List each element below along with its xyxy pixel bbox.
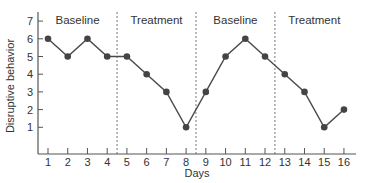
phase-label: Treatment bbox=[288, 14, 341, 26]
x-tick-label: 5 bbox=[124, 156, 130, 168]
y-tick-label: 1 bbox=[27, 121, 33, 133]
data-point-marker bbox=[321, 124, 328, 131]
data-point-marker bbox=[341, 106, 348, 113]
y-axis-label: Disruptive behavior bbox=[4, 39, 16, 133]
data-point-marker bbox=[301, 89, 308, 96]
data-point-marker bbox=[45, 36, 52, 43]
x-ticks: 12345678910111213141516 bbox=[45, 148, 350, 168]
x-tick-label: 14 bbox=[298, 156, 310, 168]
x-tick-label: 4 bbox=[104, 156, 110, 168]
y-tick-label: 2 bbox=[27, 104, 33, 116]
y-tick-label: 6 bbox=[27, 33, 33, 45]
x-tick-label: 16 bbox=[338, 156, 350, 168]
data-point-marker bbox=[104, 53, 111, 60]
y-tick-label: 5 bbox=[27, 51, 33, 63]
data-point-marker bbox=[84, 36, 91, 43]
data-point-marker bbox=[124, 53, 131, 60]
data-point-marker bbox=[203, 89, 210, 96]
data-point-marker bbox=[242, 36, 249, 43]
data-point-marker bbox=[163, 89, 170, 96]
x-tick-label: 7 bbox=[163, 156, 169, 168]
x-tick-label: 10 bbox=[219, 156, 231, 168]
axes bbox=[38, 12, 356, 154]
data-point-marker bbox=[281, 71, 288, 78]
x-tick-label: 1 bbox=[45, 156, 51, 168]
x-tick-label: 6 bbox=[144, 156, 150, 168]
data-point-marker bbox=[183, 124, 190, 131]
y-tick-label: 4 bbox=[27, 68, 33, 80]
data-point-marker bbox=[64, 53, 71, 60]
x-tick-label: 2 bbox=[65, 156, 71, 168]
data-point-marker bbox=[262, 53, 269, 60]
phase-label: Baseline bbox=[213, 14, 257, 26]
y-tick-label: 7 bbox=[27, 15, 33, 27]
x-tick-label: 13 bbox=[279, 156, 291, 168]
phase-labels: BaselineTreatmentBaselineTreatment bbox=[56, 14, 342, 26]
x-tick-label: 15 bbox=[318, 156, 330, 168]
y-ticks: 1234567 bbox=[27, 15, 43, 133]
phase-label: Treatment bbox=[131, 14, 184, 26]
data-point-marker bbox=[143, 71, 150, 78]
x-axis-label: Days bbox=[184, 167, 210, 179]
y-tick-label: 3 bbox=[27, 86, 33, 98]
phase-label: Baseline bbox=[56, 14, 100, 26]
x-tick-label: 3 bbox=[84, 156, 90, 168]
x-tick-label: 12 bbox=[259, 156, 271, 168]
phase-dividers bbox=[117, 12, 275, 154]
ab-design-line-chart: BaselineTreatmentBaselineTreatment 12345… bbox=[0, 0, 367, 183]
data-point-marker bbox=[222, 53, 229, 60]
x-tick-label: 11 bbox=[240, 156, 251, 168]
